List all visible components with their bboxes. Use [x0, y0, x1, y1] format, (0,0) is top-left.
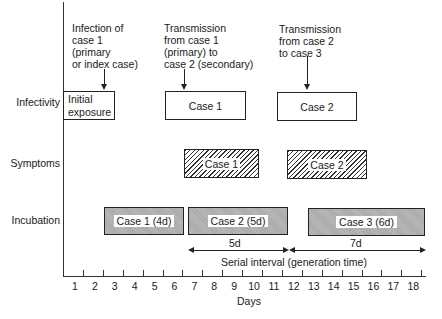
x-axis-tick [202, 270, 203, 276]
x-axis-day-label: 16 [363, 280, 383, 292]
row-label-symptoms: Symptoms [2, 157, 60, 169]
x-axis-tick [421, 270, 422, 276]
x-axis-tick [302, 270, 303, 276]
box-infectivity-case2: Case 2 [277, 92, 357, 121]
arrowhead-down-icon [101, 84, 107, 90]
x-axis-tick [182, 270, 183, 276]
annotation-transmission-2-3: Transmission from case 2 to case 3 [279, 23, 341, 59]
x-axis-day-label: 7 [184, 280, 204, 292]
x-axis-tick [123, 270, 124, 276]
x-axis-day-label: 8 [204, 280, 224, 292]
box-symptoms-case1: Case 1 [184, 149, 259, 178]
arrowhead-down-icon [181, 84, 187, 90]
x-axis-tick [163, 270, 164, 276]
box-symptoms-case2: Case 2 [287, 150, 367, 179]
box-incubation-case1: Case 1 (4d) [104, 207, 184, 235]
arrowhead-right-icon [420, 247, 426, 253]
x-axis-day-label: 17 [383, 280, 403, 292]
x-axis-day-label: 1 [65, 280, 85, 292]
x-axis-day-label: 4 [125, 280, 145, 292]
serial-interval-label: Serial interval (generation time) [221, 256, 367, 268]
x-axis-day-label: 5 [145, 280, 165, 292]
annotation-infection-case1: Infection of case 1 (primary or index ca… [72, 22, 138, 70]
x-axis-day-label: 9 [224, 280, 244, 292]
x-axis-label: Days [237, 295, 261, 307]
arrow-transmission-2-3 [307, 56, 308, 87]
box-initial-exposure: Initial exposure [63, 91, 115, 120]
x-axis-tick [381, 270, 382, 276]
x-axis-tick [242, 270, 243, 276]
x-axis-day-label: 2 [85, 280, 105, 292]
x-axis-tick [103, 270, 104, 276]
x-axis-tick [282, 270, 283, 276]
x-axis-tick [222, 270, 223, 276]
x-axis-day-label: 3 [105, 280, 125, 292]
x-axis-tick [362, 270, 363, 276]
y-axis-line [63, 2, 64, 277]
box-infectivity-case1: Case 1 [165, 91, 246, 120]
interval-label-7d: 7d [350, 237, 362, 249]
row-label-infectivity: Infectivity [2, 96, 60, 108]
box-incubation-case2: Case 2 (5d) [188, 207, 288, 235]
x-axis-line [63, 276, 426, 277]
x-axis-day-label: 13 [304, 280, 324, 292]
x-axis-tick [401, 270, 402, 276]
x-axis-tick [143, 270, 144, 276]
x-axis-tick [322, 270, 323, 276]
x-axis-day-label: 11 [264, 280, 284, 292]
interval-arrow-5d [191, 250, 284, 251]
x-axis-day-label: 6 [164, 280, 184, 292]
interval-arrow-7d [292, 250, 422, 251]
x-axis-tick [83, 270, 84, 276]
x-axis-day-label: 10 [244, 280, 264, 292]
x-axis-tick [262, 270, 263, 276]
box-incubation-case3: Case 3 (6d) [308, 208, 425, 236]
x-axis-day-label: 14 [324, 280, 344, 292]
row-label-incubation: Incubation [2, 214, 60, 226]
x-axis-tick [342, 270, 343, 276]
x-axis-day-label: 15 [344, 280, 364, 292]
arrowhead-left-icon [188, 247, 194, 253]
interval-label-5d: 5d [229, 237, 241, 249]
x-axis-day-label: 12 [284, 280, 304, 292]
annotation-transmission-1-2: Transmission from case 1 (primary) to ca… [164, 22, 253, 70]
arrowhead-down-icon [304, 84, 310, 90]
arrowhead-left-icon [289, 247, 295, 253]
x-axis-day-label: 18 [403, 280, 423, 292]
